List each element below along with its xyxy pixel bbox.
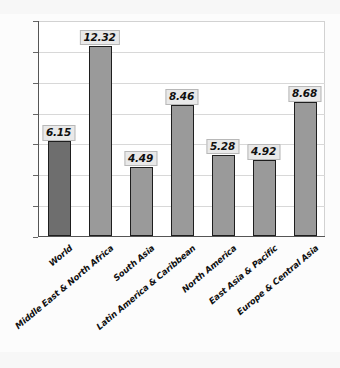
plot-right-border [324, 21, 325, 236]
x-category-label: East Asia & Pacific [206, 243, 279, 306]
x-category-label: World [46, 243, 73, 268]
gridline [39, 83, 325, 84]
bar-value-label: 8.46 [165, 89, 198, 105]
plot-top-border [39, 21, 325, 22]
bar [130, 167, 154, 236]
bar-value-label: 4.92 [247, 144, 280, 160]
bar [294, 102, 318, 236]
bar [48, 141, 72, 236]
plot-area [38, 21, 325, 237]
bar-value-label: 12.32 [79, 30, 119, 46]
gridline [39, 52, 325, 53]
bar [253, 160, 277, 236]
bar [212, 155, 236, 236]
bar [171, 105, 195, 236]
bar-value-label: 6.15 [42, 125, 75, 141]
x-category-label: Europe & Central Asia [234, 243, 320, 317]
bar-value-label: 5.28 [206, 139, 239, 155]
bar-chart: 02468101214% 6.1512.324.498.465.284.928.… [0, 0, 340, 368]
bar-value-label: 8.68 [288, 86, 321, 102]
bar [89, 46, 113, 236]
bar-value-label: 4.49 [124, 151, 157, 167]
y-tick-mark [33, 237, 38, 238]
